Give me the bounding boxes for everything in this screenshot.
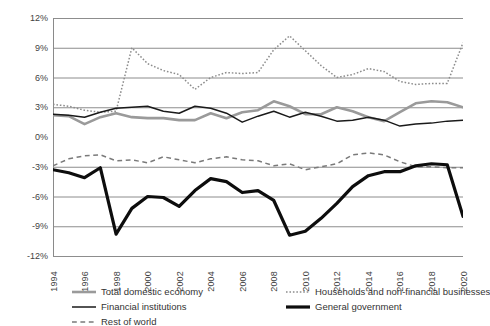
y-axis-tick-label: 12% bbox=[14, 13, 48, 23]
y-axis-tick-label: -12% bbox=[14, 251, 48, 261]
legend-swatch-icon bbox=[72, 287, 96, 297]
legend-label: Total domestic economy bbox=[101, 286, 203, 297]
series-line bbox=[53, 101, 463, 124]
legend-swatch-icon bbox=[72, 302, 96, 312]
series-line bbox=[53, 164, 463, 235]
legend-item[interactable]: Rest of world bbox=[72, 316, 156, 326]
y-axis-tick-label: 3% bbox=[14, 102, 48, 112]
series-line bbox=[53, 36, 463, 112]
y-axis-tick-label: -3% bbox=[14, 162, 48, 172]
legend-label: Rest of world bbox=[101, 316, 156, 326]
y-axis-tick-label: 0% bbox=[14, 132, 48, 142]
legend-swatch-icon bbox=[286, 287, 310, 297]
y-axis-tick-labels: 12%9%6%3%0%-3%-6%-9%-12% bbox=[14, 0, 48, 326]
y-axis-tick-label: -6% bbox=[14, 192, 48, 202]
legend-item[interactable]: Total domestic economy bbox=[72, 286, 203, 297]
legend-label: Households and non-financial businesses bbox=[315, 286, 490, 297]
legend-label: Financial institutions bbox=[101, 301, 187, 312]
legend-swatch-icon bbox=[286, 302, 310, 312]
legend-item[interactable]: General government bbox=[286, 301, 402, 312]
legend-label: General government bbox=[315, 301, 402, 312]
plot-area bbox=[53, 18, 463, 256]
legend-swatch-icon bbox=[72, 317, 96, 326]
legend-item[interactable]: Households and non-financial businesses bbox=[286, 286, 490, 297]
chart-legend: Total domestic economyFinancial institut… bbox=[0, 286, 482, 326]
y-axis-tick-label: 6% bbox=[14, 73, 48, 83]
y-axis-tick-label: 9% bbox=[14, 43, 48, 53]
chart-canvas bbox=[53, 18, 463, 258]
legend-item[interactable]: Financial institutions bbox=[72, 301, 187, 312]
y-axis-tick-label: -9% bbox=[14, 221, 48, 231]
